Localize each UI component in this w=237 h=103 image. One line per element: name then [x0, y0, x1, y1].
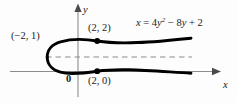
parabola-figure: (−2, 1) (2, 2) (2, 0) 0 y x x = 4y2 − 8y…: [0, 0, 237, 103]
equation-minus: −: [168, 17, 174, 28]
equation-lhs: x: [136, 17, 141, 28]
upper-point-label: (2, 2): [88, 23, 111, 34]
equation-exponent: 2: [162, 16, 166, 24]
equation-plus: +: [189, 17, 195, 28]
x-axis-label: x: [223, 80, 228, 91]
equation-annotation: x = 4y2 − 8y + 2: [136, 18, 203, 29]
y-axis: [74, 4, 81, 98]
point-marker-2-2: [94, 38, 100, 44]
point-marker-2-0: [94, 68, 100, 74]
parabola-upper-branch: [47, 38, 191, 57]
y-axis-arrowhead: [74, 4, 81, 13]
x-axis-arrowhead: [212, 68, 221, 75]
equation-equals: =: [143, 17, 149, 28]
lower-point-label: (2, 0): [88, 76, 111, 87]
origin-label: 0: [66, 74, 71, 85]
equation-constant: 2: [198, 17, 203, 28]
y-axis-label: y: [83, 5, 88, 16]
vertex-label: (−2, 1): [11, 31, 40, 42]
plot-canvas: [0, 0, 237, 103]
equation-var-y2: y: [182, 17, 187, 28]
